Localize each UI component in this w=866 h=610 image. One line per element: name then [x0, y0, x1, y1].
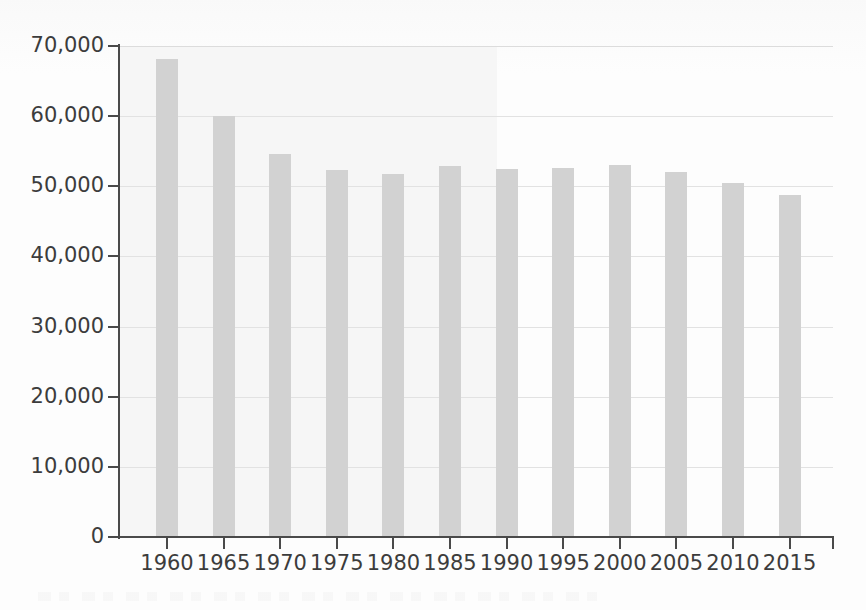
x-tick-mark-1975 — [336, 538, 338, 549]
y-axis-tick-labels: 010,00020,00030,00040,00050,00060,00070,… — [8, 0, 104, 610]
x-tick-mark-1990 — [506, 538, 508, 549]
x-tick-label-2015: 2015 — [755, 552, 825, 574]
bar-1990[interactable] — [496, 169, 518, 537]
y-tick-label-60000: 60,000 — [10, 105, 104, 126]
bar-1995[interactable] — [552, 168, 574, 537]
x-tick-mark-1965 — [223, 538, 225, 549]
bar-2000[interactable] — [609, 165, 631, 537]
x-tick-mark-2000 — [619, 538, 621, 549]
y-tick-mark-30000 — [108, 326, 119, 328]
y-tick-mark-50000 — [108, 185, 119, 187]
bar-1975[interactable] — [326, 170, 348, 537]
x-tick-mark-2015 — [789, 538, 791, 549]
plot-area — [119, 46, 833, 537]
y-tick-label-50000: 50,000 — [10, 175, 104, 196]
x-tick-mark-1985 — [449, 538, 451, 549]
bar-1970[interactable] — [269, 154, 291, 537]
y-tick-mark-0 — [108, 536, 119, 538]
bar-2015[interactable] — [779, 195, 801, 537]
y-axis-line — [118, 44, 120, 539]
x-tick-mark-1980 — [392, 538, 394, 549]
x-axis-line — [118, 536, 834, 538]
y-tick-mark-60000 — [108, 115, 119, 117]
y-tick-label-0: 0 — [10, 526, 104, 547]
y-tick-label-40000: 40,000 — [10, 245, 104, 266]
bar-2010[interactable] — [722, 183, 744, 537]
y-tick-label-30000: 30,000 — [10, 316, 104, 337]
bar-chart: 010,00020,00030,00040,00050,00060,00070,… — [0, 0, 866, 610]
bar-1965[interactable] — [213, 116, 235, 537]
y-tick-label-10000: 10,000 — [10, 456, 104, 477]
y-tick-mark-40000 — [108, 255, 119, 257]
bar-2005[interactable] — [665, 172, 687, 537]
x-tick-mark-2005 — [675, 538, 677, 549]
y-tick-mark-70000 — [108, 45, 119, 47]
y-tick-label-20000: 20,000 — [10, 386, 104, 407]
bar-1960[interactable] — [156, 59, 178, 537]
bar-1980[interactable] — [382, 174, 404, 537]
y-tick-mark-10000 — [108, 466, 119, 468]
x-tick-mark-1995 — [562, 538, 564, 549]
x-tick-mark-2010 — [732, 538, 734, 549]
gridline-70000 — [119, 46, 833, 47]
bar-1985[interactable] — [439, 166, 461, 537]
y-tick-label-70000: 70,000 — [10, 35, 104, 56]
x-tick-mark-1970 — [279, 538, 281, 549]
x-tick-mark-1960 — [166, 538, 168, 549]
x-axis-end-tick — [832, 538, 834, 549]
y-tick-mark-20000 — [108, 396, 119, 398]
